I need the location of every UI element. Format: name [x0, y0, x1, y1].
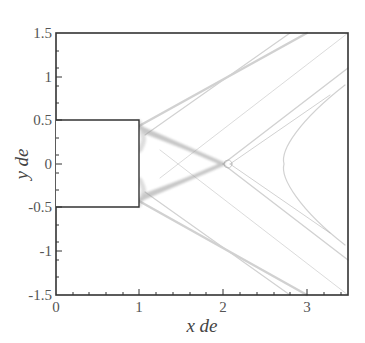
y-tick-label: 0 [45, 156, 53, 172]
wake-features [139, 33, 348, 295]
y-tick-label: 1 [45, 69, 53, 85]
y-tick-label: -0.5 [28, 199, 52, 215]
y-tick-label: -1 [40, 243, 53, 259]
y-tick-label: -1.5 [28, 287, 52, 303]
chart: 0 1 2 3 1.5 1 0.5 0 -0.5 -1 -1.5 x de y … [0, 0, 365, 343]
x-tick-label: 3 [303, 299, 311, 315]
body-rectangle [56, 120, 139, 207]
y-axis-label: y de [11, 148, 32, 181]
y-axis-ticks [56, 51, 62, 277]
x-tick-label: 1 [135, 299, 143, 315]
x-tick-label: 0 [52, 299, 60, 315]
y-tick-label: 1.5 [33, 25, 52, 41]
x-tick-label: 2 [219, 299, 227, 315]
x-tick-labels: 0 1 2 3 [52, 299, 311, 315]
y-tick-label: 0.5 [33, 112, 52, 128]
x-axis-label: x de [185, 315, 217, 336]
